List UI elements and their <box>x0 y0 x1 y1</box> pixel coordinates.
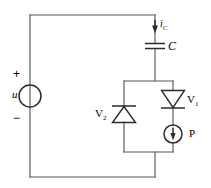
diode-v2-triangle <box>113 107 136 123</box>
current-source-arrow-head <box>170 133 175 141</box>
diode-v2-label: V2 <box>95 108 106 122</box>
schematic-svg <box>0 0 211 188</box>
source-voltage-label: u <box>12 89 18 100</box>
capacitor-c[interactable] <box>145 44 165 49</box>
current-arrow-ic <box>152 20 158 34</box>
diode-v1-subscript: 1 <box>195 100 199 108</box>
capacitor-label: C <box>168 40 176 52</box>
source-minus-sign: − <box>13 112 20 124</box>
diode-v1-triangle <box>162 91 185 108</box>
current-arrow-head <box>152 26 158 34</box>
diode-v2-symbol: V <box>95 107 103 119</box>
capacitor-current-subscript: C <box>163 24 168 32</box>
diode-v1-symbol: V <box>187 93 195 105</box>
source-plus-sign: + <box>13 68 20 80</box>
diode-v1[interactable] <box>161 91 185 109</box>
current-source-p[interactable] <box>164 125 182 143</box>
diode-v2-subscript: 2 <box>103 114 107 122</box>
capacitor-current-label: iC <box>160 19 167 32</box>
voltage-source-u[interactable] <box>19 85 41 107</box>
current-source-p-label: P <box>189 128 195 139</box>
outer-loop-wires <box>30 15 155 177</box>
circuit-diagram: + u − iC C V2 V1 P <box>0 0 211 188</box>
diode-v2[interactable] <box>112 106 136 123</box>
diode-v1-label: V1 <box>187 94 198 108</box>
